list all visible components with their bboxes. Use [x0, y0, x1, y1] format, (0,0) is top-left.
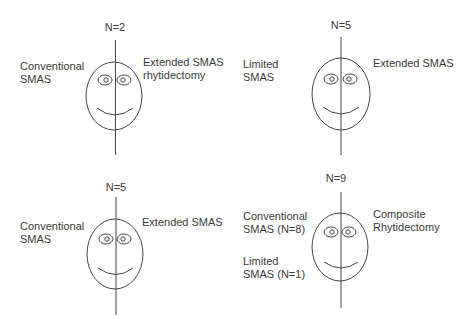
face-outline	[87, 219, 143, 289]
right-pupil-icon	[121, 237, 125, 241]
right-eye-icon	[342, 227, 356, 237]
right-technique-label: Extended SMAS rhytidectomy	[143, 56, 224, 82]
left-eye-icon	[324, 227, 338, 237]
left-eye-icon	[98, 75, 112, 85]
face-panel-3	[87, 197, 143, 315]
right-pupil-icon	[347, 77, 351, 81]
left-technique-label: Conventional SMAS	[20, 220, 84, 246]
left-technique-label: Conventional SMAS (N=8)	[243, 210, 307, 236]
sample-size-label: N=9	[321, 172, 351, 184]
right-pupil-icon	[121, 78, 125, 82]
left-eye-icon	[99, 234, 113, 244]
left-technique-label: Conventional SMAS	[20, 60, 84, 86]
sample-size-label: N=5	[101, 181, 131, 193]
right-pupil-icon	[346, 230, 350, 234]
left-pupil-icon	[105, 237, 109, 241]
face-outline	[312, 213, 368, 281]
left-eye-icon	[324, 74, 338, 84]
face-panel-4	[312, 192, 368, 308]
left-pupil-icon	[330, 77, 334, 81]
right-eye-icon	[117, 234, 131, 244]
face-panel-1	[86, 40, 142, 155]
right-technique-label: Extended SMAS	[373, 57, 454, 70]
sample-size-label: N=2	[100, 21, 130, 33]
left-technique-label-secondary: Limited SMAS (N=1)	[243, 255, 305, 281]
left-pupil-icon	[330, 230, 334, 234]
left-pupil-icon	[104, 78, 108, 82]
right-technique-label: Extended SMAS	[142, 216, 223, 229]
left-technique-label: Limited SMAS	[243, 58, 278, 84]
sample-size-label: N=5	[326, 19, 356, 31]
face-panel-2	[312, 37, 370, 155]
right-technique-label: Composite Rhytidectomy	[373, 208, 440, 234]
right-eye-icon	[343, 74, 357, 84]
faces-diagram	[0, 0, 470, 319]
right-eye-icon	[117, 75, 131, 85]
face-outline	[86, 62, 142, 130]
